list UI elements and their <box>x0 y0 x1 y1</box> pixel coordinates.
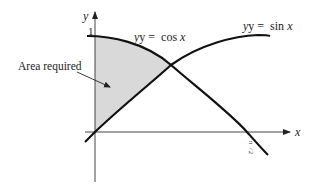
area-diagram: y 1 x π / 2 yy = cos x yy = sin x Area r… <box>0 0 317 187</box>
svg-text:2: 2 <box>248 151 254 154</box>
x-axis-label: x <box>294 125 301 139</box>
x-tick-pi-over-2: π / 2 <box>248 141 254 154</box>
shaded-area-region <box>95 36 171 132</box>
area-required-label: Area required <box>18 60 82 73</box>
svg-text:/: / <box>248 148 254 150</box>
sin-curve-label: yy = sin x <box>242 19 293 33</box>
y-tick-one-label: 1 <box>88 25 94 37</box>
y-axis-label: y <box>82 9 89 23</box>
cos-curve-label: yy = cos x <box>133 30 186 44</box>
svg-text:π: π <box>248 141 254 144</box>
